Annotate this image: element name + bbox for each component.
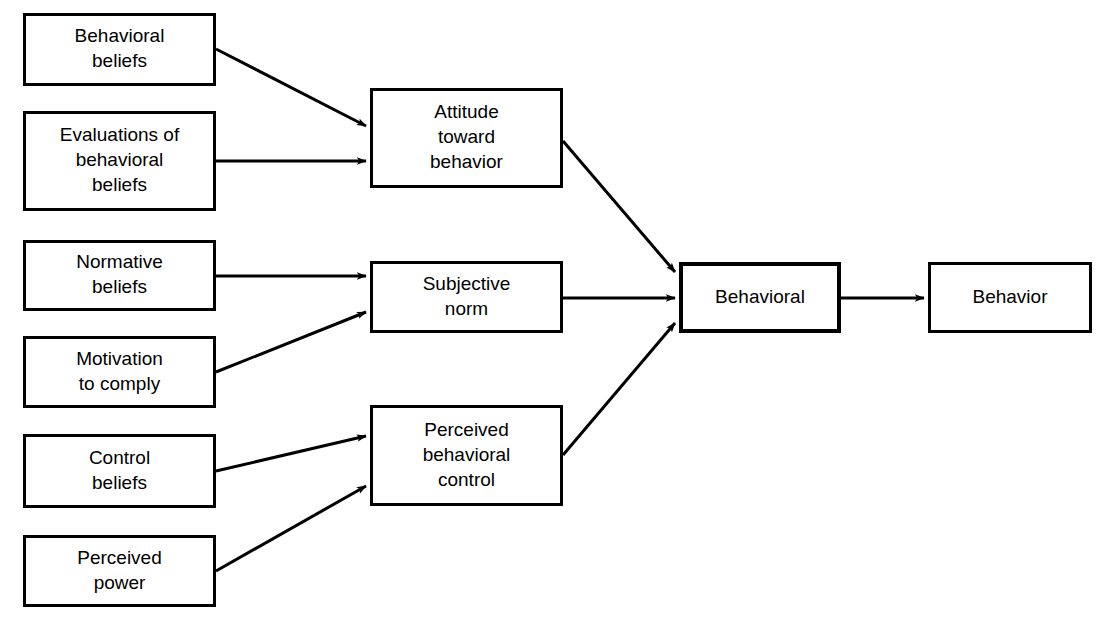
node-evaluations-of-behavioral-beliefs[interactable]: Evaluations ofbehavioralbeliefs bbox=[25, 113, 215, 210]
node-label-line: behavior bbox=[430, 151, 504, 172]
node-control-beliefs[interactable]: Controlbeliefs bbox=[25, 436, 215, 507]
arrow-behavioral-beliefs-to-attitude bbox=[216, 49, 366, 126]
node-label-line: Control bbox=[89, 447, 150, 468]
node-label-behavior: Behavior bbox=[973, 286, 1049, 307]
node-label-behavioral-intention: Behavioral bbox=[715, 286, 805, 307]
nodes-layer: BehavioralbeliefsEvaluations ofbehaviora… bbox=[25, 15, 1091, 606]
node-motivation-to-comply[interactable]: Motivationto comply bbox=[25, 338, 215, 407]
node-label-line: control bbox=[438, 469, 495, 490]
node-label-line: beliefs bbox=[92, 174, 147, 195]
node-label-line: Attitude bbox=[434, 101, 498, 122]
node-label-line: behavioral bbox=[76, 149, 164, 170]
node-subjective-norm[interactable]: Subjectivenorm bbox=[372, 263, 562, 332]
node-behavioral-intention[interactable]: Behavioral bbox=[681, 264, 839, 331]
node-label-line: to comply bbox=[79, 373, 161, 394]
node-label-line: Subjective bbox=[423, 273, 511, 294]
node-label-line: toward bbox=[438, 126, 495, 147]
node-label-line: Behavioral bbox=[715, 286, 805, 307]
node-label-line: Behavior bbox=[973, 286, 1049, 307]
node-normative-beliefs[interactable]: Normativebeliefs bbox=[25, 242, 215, 310]
theory-of-planned-behavior-diagram: BehavioralbeliefsEvaluations ofbehaviora… bbox=[0, 0, 1107, 622]
node-perceived-power[interactable]: Perceivedpower bbox=[25, 537, 215, 606]
node-perceived-behavioral-control[interactable]: Perceivedbehavioralcontrol bbox=[372, 407, 562, 505]
arrow-perceived-power-to-pbc bbox=[216, 486, 366, 571]
node-attitude-toward-behavior[interactable]: Attitudetowardbehavior bbox=[372, 90, 562, 187]
node-label-line: Perceived bbox=[424, 419, 509, 440]
arrow-attitude-to-behavioral-intention bbox=[563, 141, 675, 272]
node-label-line: Evaluations of bbox=[60, 124, 180, 145]
node-label-line: Behavioral bbox=[75, 25, 165, 46]
node-label-line: beliefs bbox=[92, 276, 147, 297]
node-label-line: behavioral bbox=[423, 444, 511, 465]
arrow-motivation-to-subjective-norm bbox=[216, 312, 366, 372]
node-label-line: Perceived bbox=[77, 547, 162, 568]
node-behavior[interactable]: Behavior bbox=[930, 264, 1091, 332]
node-label-line: norm bbox=[445, 298, 488, 319]
arrow-pbc-to-behavioral-intention bbox=[563, 323, 675, 455]
diagram-canvas: BehavioralbeliefsEvaluations ofbehaviora… bbox=[0, 0, 1107, 622]
node-label-line: beliefs bbox=[92, 472, 147, 493]
node-label-line: beliefs bbox=[92, 50, 147, 71]
node-label-line: power bbox=[94, 572, 146, 593]
node-label-line: Normative bbox=[76, 251, 163, 272]
node-label-line: Motivation bbox=[76, 348, 163, 369]
arrow-control-beliefs-to-pbc bbox=[216, 436, 366, 471]
node-label-attitude-toward-behavior: Attitudetowardbehavior bbox=[430, 101, 504, 172]
node-behavioral-beliefs[interactable]: Behavioralbeliefs bbox=[25, 15, 215, 85]
